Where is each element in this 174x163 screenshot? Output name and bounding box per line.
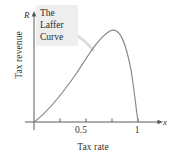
plot-area [0,0,174,163]
x-tick-label-1: 1 [130,126,144,136]
x-axis-variable-label: x [163,118,167,127]
callout-label-box: The Laffer Curve [36,5,78,46]
callout-line-1: The [40,7,78,19]
y-axis-title: Tax revenue [14,10,24,100]
x-tick-label-0-5: 0.5 [70,126,92,136]
callout-line-2: Laffer [40,19,78,31]
laffer-curve-figure: R x 0.5 1 Tax revenue Tax rate The Laffe… [0,0,174,163]
x-axis-title: Tax rate [48,142,138,152]
y-axis-variable-label: R [24,11,30,20]
callout-line-3: Curve [40,31,78,43]
